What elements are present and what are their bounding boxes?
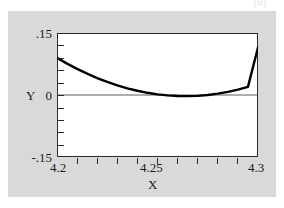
- x-tick-4.21: [77, 158, 78, 164]
- figure-container: (b) .15 0 -.15 Y 4.2 4.25 4.3 X: [0, 0, 284, 208]
- y-tick--0.12: [58, 145, 64, 146]
- panel-label: (b): [248, 0, 272, 8]
- y-tick-0.03: [58, 83, 64, 84]
- x-tick-4.26: [177, 158, 178, 164]
- data-curve: [57, 47, 258, 96]
- y-tick--0.09: [58, 132, 64, 133]
- x-axis-tick-label-right: 4.3: [248, 160, 264, 176]
- x-axis-title: X: [148, 177, 157, 193]
- y-tick-0.12: [58, 45, 64, 46]
- y-axis-tick-label-mid: 0: [46, 88, 53, 104]
- plot-drawing-area: [57, 33, 258, 157]
- x-tick-4.23: [117, 158, 118, 164]
- x-tick-4.28: [217, 158, 218, 164]
- x-axis-tick-label-mid: 4.25: [140, 160, 163, 176]
- y-axis-title: Y: [26, 88, 35, 104]
- x-tick-4.29: [237, 158, 238, 164]
- y-axis-tick-label-top: .15: [36, 26, 52, 42]
- y-tick-0.06: [58, 70, 64, 71]
- y-tick-0: [58, 95, 64, 96]
- x-tick-4.24: [137, 158, 138, 164]
- y-axis-tick-label-bottom: -.15: [31, 150, 52, 166]
- y-tick-0.09: [58, 58, 64, 59]
- y-tick--0.03: [58, 108, 64, 109]
- x-axis-tick-label-left: 4.2: [50, 160, 66, 176]
- x-tick-4.27: [197, 158, 198, 164]
- x-tick-4.22: [97, 158, 98, 164]
- y-tick--0.06: [58, 120, 64, 121]
